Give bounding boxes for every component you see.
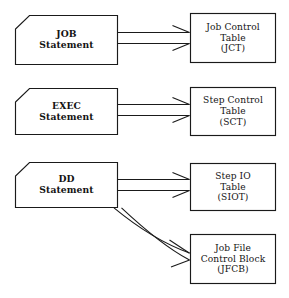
- diagram-root: JOB Statement EXEC Statement DD Statemen…: [0, 0, 289, 298]
- siot-table-shape[interactable]: [191, 164, 276, 211]
- arrow-job-to-jct[interactable]: [118, 26, 190, 51]
- arrow-dd-to-jfcb[interactable]: [114, 208, 190, 267]
- arrow-dd-to-siot[interactable]: [118, 173, 190, 198]
- exec-statement-shape[interactable]: [16, 89, 118, 135]
- sct-table-shape[interactable]: [191, 88, 276, 136]
- jct-table-shape[interactable]: [191, 14, 276, 63]
- jfcb-block-shape[interactable]: [191, 235, 276, 284]
- job-statement-shape[interactable]: [16, 16, 118, 65]
- dd-statement-shape[interactable]: [16, 163, 118, 208]
- diagram-canvas: [0, 0, 289, 298]
- arrow-exec-to-sct[interactable]: [118, 98, 190, 123]
